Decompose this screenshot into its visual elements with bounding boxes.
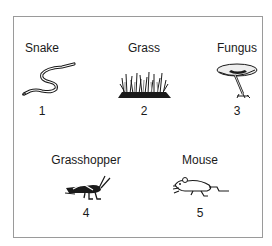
organism-label: Grasshopper	[46, 153, 126, 167]
organism-grasshopper: Grasshopper 4	[46, 0, 126, 246]
grasshopper-icon	[63, 174, 113, 202]
mouse-icon	[171, 175, 233, 199]
organism-number: 5	[160, 206, 240, 220]
organism-mouse: Mouse 5	[160, 0, 240, 246]
organism-number: 4	[46, 206, 126, 220]
organism-label: Mouse	[160, 153, 240, 167]
